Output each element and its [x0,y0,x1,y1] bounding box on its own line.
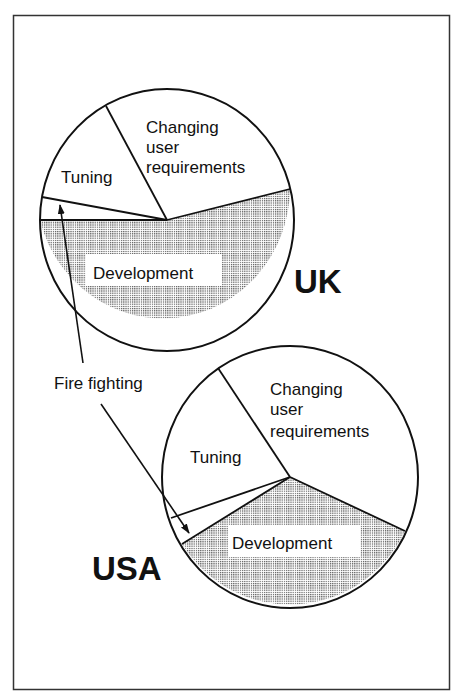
uk-label-changing-1: Changing [146,118,219,137]
uk-label-changing-3: requirements [146,158,245,177]
uk-title: UK [294,263,342,300]
uk-pie: Changing user requirements Tuning Develo… [40,89,294,351]
usa-label-changing-1: Changing [270,380,343,399]
pie-chart-figure: Changing user requirements Tuning Develo… [0,0,458,698]
fire-fighting-annotation: Fire fighting [54,374,143,393]
uk-label-development: Development [93,264,193,283]
usa-title: USA [92,550,162,587]
uk-label-tuning: Tuning [61,168,112,187]
usa-label-changing-2: user [270,400,303,419]
uk-label-changing-2: user [146,138,179,157]
usa-label-changing-3: requirements [270,422,369,441]
usa-label-tuning: Tuning [190,448,241,467]
usa-pie: Changing user requirements Tuning Develo… [162,346,418,608]
usa-label-development: Development [232,534,332,553]
